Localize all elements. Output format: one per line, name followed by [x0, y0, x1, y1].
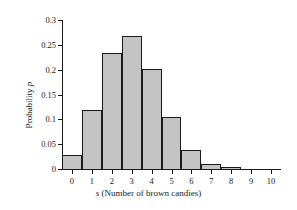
x-axis-tick — [172, 170, 173, 174]
histogram-bar — [82, 110, 102, 169]
x-axis-tick-label: 7 — [209, 177, 213, 186]
histogram-bar — [122, 36, 142, 169]
y-axis-tick-label: 0.1 — [45, 115, 56, 124]
x-axis-tick-label: 8 — [229, 177, 233, 186]
y-axis-tick-label: 0.05 — [41, 140, 56, 149]
x-axis-tick — [271, 170, 272, 174]
x-axis-tick-label: 10 — [267, 177, 276, 186]
histogram-bar — [201, 164, 221, 169]
histogram-figure: 00.050.10.150.20.250.3 012345678910 Prob… — [0, 0, 297, 210]
y-axis-tick-label: 0.2 — [45, 65, 56, 74]
y-axis-tick — [58, 95, 62, 96]
y-axis-title-variable: p — [24, 82, 34, 87]
histogram-bar — [142, 69, 162, 169]
x-axis-tick-label: 2 — [110, 177, 114, 186]
x-axis-tick-label: 6 — [189, 177, 193, 186]
x-axis-tick — [191, 170, 192, 174]
x-axis-title: s (Number of brown candies) — [0, 189, 297, 198]
y-axis-tick — [58, 45, 62, 46]
y-axis-tick — [58, 119, 62, 120]
x-axis-tick — [251, 170, 252, 174]
x-axis-tick — [152, 170, 153, 174]
plot-area: 00.050.10.150.20.250.3 012345678910 — [62, 20, 281, 169]
histogram-bar — [181, 150, 201, 169]
y-axis-tick — [58, 144, 62, 145]
y-axis-tick-label: 0 — [52, 165, 56, 174]
x-axis-tick — [92, 170, 93, 174]
x-axis-tick — [231, 170, 232, 174]
y-axis-title: Probability p — [25, 82, 34, 129]
x-axis-tick-label: 1 — [90, 177, 94, 186]
histogram-bar — [162, 117, 182, 169]
x-axis-title-rest: (Number of brown candies) — [99, 188, 201, 198]
x-axis-tick — [211, 170, 212, 174]
x-axis-tick-label: 4 — [149, 177, 153, 186]
histogram-bar — [221, 167, 241, 169]
x-axis-tick — [72, 170, 73, 174]
y-axis-tick-label: 0.25 — [41, 41, 56, 50]
x-axis-tick-label: 3 — [130, 177, 134, 186]
x-axis-tick-label: 9 — [249, 177, 253, 186]
y-axis-tick — [58, 20, 62, 21]
x-axis-tick-label: 0 — [70, 177, 74, 186]
x-axis-tick-label: 5 — [169, 177, 173, 186]
histogram-bar — [102, 53, 122, 169]
y-axis-line — [62, 20, 63, 170]
x-axis-tick — [132, 170, 133, 174]
y-axis-tick-label: 0.3 — [45, 16, 56, 25]
y-axis-tick — [58, 70, 62, 71]
x-axis-tick — [112, 170, 113, 174]
y-axis-title-prefix: Probability — [24, 86, 34, 128]
histogram-bar — [62, 155, 82, 169]
y-axis-tick — [58, 169, 62, 170]
y-axis-tick-label: 0.15 — [41, 90, 56, 99]
